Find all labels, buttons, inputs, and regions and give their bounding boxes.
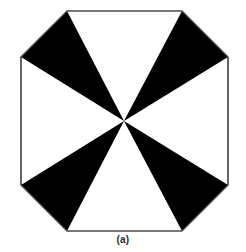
figure-caption: (a): [0, 231, 246, 249]
figure-panel: (a): [0, 0, 246, 252]
octagon-pinwheel-figure: [0, 0, 246, 252]
